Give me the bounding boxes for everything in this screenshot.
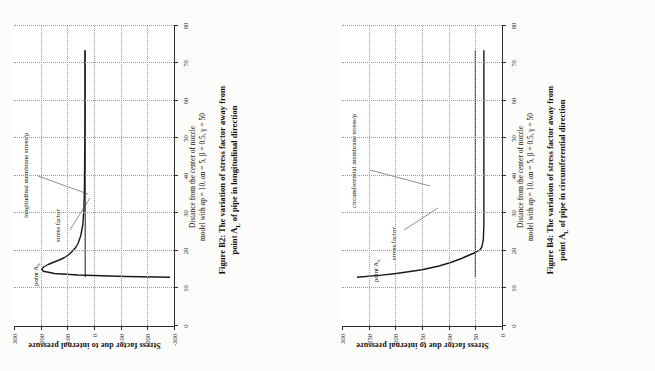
- x-tick: [502, 175, 506, 176]
- model-parameters-b4: model with αp = 10, αn = 5, β = 0.5, γ =…: [526, 27, 535, 327]
- y-tick: [369, 326, 370, 330]
- y-tick: [174, 326, 175, 330]
- x-tick: [174, 213, 178, 214]
- plot-b2: Stress factor due to internal pressure p…: [6, 0, 202, 371]
- x-tick: [174, 175, 178, 176]
- y-tick: [502, 326, 503, 330]
- gridline-horizontal: [121, 26, 122, 326]
- gridline-horizontal: [422, 26, 423, 326]
- x-tick: [502, 288, 506, 289]
- model-parameters-b2: model with αp = 10, αn = 5, β = 0.5, γ =…: [198, 27, 207, 327]
- x-tick: [174, 250, 178, 251]
- caption-line-1: Figure B2: The variation of stress facto…: [217, 86, 227, 274]
- gridline-horizontal: [147, 26, 148, 326]
- y-tick: [67, 326, 68, 330]
- x-axis-title-b4: Distance from the center of nozzle: [516, 27, 525, 327]
- gridline-horizontal: [395, 26, 396, 326]
- plot-b4: Stress factor due to internal pressure p…: [334, 0, 530, 371]
- y-tick: [422, 326, 423, 330]
- plot-area-b4: point AL stress factor circumferential m…: [342, 26, 503, 327]
- y-tick: [395, 326, 396, 330]
- y-tick-label: 50: [472, 334, 479, 341]
- y-tick-label: 250: [365, 334, 372, 344]
- y-tick: [94, 326, 95, 330]
- y-tick: [147, 326, 148, 330]
- figure-page: Stress factor due to internal pressure p…: [0, 0, 655, 371]
- caption-line-1: Figure B4: The variation of stress facto…: [545, 86, 555, 274]
- y-tick-label: 100: [445, 334, 452, 344]
- gridline-horizontal: [41, 26, 42, 326]
- x-tick: [502, 63, 506, 64]
- annotation-leader-line: [38, 176, 88, 194]
- series-stress-factor: [42, 50, 170, 277]
- caption-b2: Figure B2: The variation of stress facto…: [216, 15, 244, 345]
- x-tick: [174, 100, 178, 101]
- y-axis-title-b2: Stress factor due to internal pressure: [0, 341, 195, 350]
- figure-b4: Stress factor due to internal pressure p…: [328, 0, 655, 371]
- gridline-horizontal: [94, 26, 95, 326]
- x-tick: [502, 25, 506, 26]
- gridline-horizontal: [449, 26, 450, 326]
- y-tick-label: 0: [91, 334, 98, 337]
- y-tick: [41, 326, 42, 330]
- x-tick: [174, 63, 178, 64]
- gridline-horizontal: [369, 26, 370, 326]
- caption-b4: Figure B4: The variation of stress facto…: [544, 15, 572, 345]
- y-tick-label: -200: [144, 334, 151, 346]
- y-tick: [14, 326, 15, 330]
- caption-line-2: point AL of pipe in longitudinal directi…: [228, 15, 244, 345]
- x-tick: [174, 288, 178, 289]
- y-tick: [342, 326, 343, 330]
- y-tick: [121, 326, 122, 330]
- annotation-leader-line: [404, 208, 438, 230]
- caption-line-2: point AL of pipe in circumferential dire…: [556, 15, 572, 345]
- x-tick: [174, 25, 178, 26]
- gridline-horizontal: [67, 26, 68, 326]
- y-tick-label: -100: [117, 334, 124, 346]
- plot-area-b2: point AL stress factor longitudinal memb…: [14, 26, 175, 327]
- x-tick: [502, 213, 506, 214]
- gridline-horizontal: [475, 26, 476, 326]
- y-tick: [475, 326, 476, 330]
- x-tick: [502, 250, 506, 251]
- annotation-leader-line: [370, 170, 430, 186]
- annotation-membrane-stress-b4: circumferential membrane stress/p: [350, 114, 357, 208]
- x-tick: [174, 138, 178, 139]
- y-tick-label: 300: [339, 334, 346, 344]
- y-tick-label: 300: [11, 334, 18, 344]
- annotation-leader-line: [70, 198, 90, 230]
- series-stress-factor: [357, 50, 484, 277]
- x-tick: [502, 138, 506, 139]
- figure-b2: Stress factor due to internal pressure p…: [0, 0, 327, 371]
- y-tick-label: 100: [64, 334, 71, 344]
- x-axis-title-b2: Distance from the center of nozzle: [188, 27, 197, 327]
- y-tick: [449, 326, 450, 330]
- y-tick-label: 0: [499, 334, 506, 337]
- y-tick-label: 200: [392, 334, 399, 344]
- y-tick-label: 200: [37, 334, 44, 344]
- x-tick: [502, 100, 506, 101]
- y-tick-label: 150: [419, 334, 426, 344]
- y-tick-label: -300: [171, 334, 178, 346]
- annotation-stress-factor-b2: stress factor: [54, 209, 61, 242]
- annotation-point-al-b4: point AL: [372, 259, 381, 282]
